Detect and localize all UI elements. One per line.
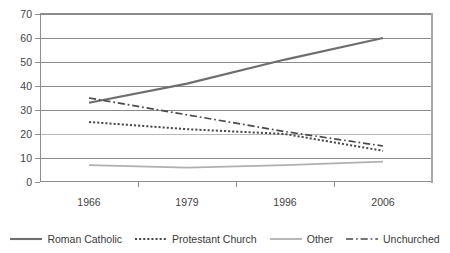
legend-entry-unchurched: Unchurched <box>346 233 440 245</box>
legend-label-unchurched: Unchurched <box>383 233 440 245</box>
legend: Roman Catholic Protestant Church Other U… <box>0 228 450 250</box>
legend-entry-other: Other <box>270 233 333 245</box>
line-chart: 70 60 50 40 30 20 10 0 1966 1979 1996 20… <box>0 0 450 253</box>
legend-label-other: Other <box>307 233 333 245</box>
series-line-other <box>89 162 383 168</box>
series-line-unchurched <box>89 98 383 146</box>
legend-swatch-other <box>270 234 302 244</box>
series-layer <box>0 0 450 253</box>
legend-swatch-unchurched <box>346 234 378 244</box>
legend-entry-roman-catholic: Roman Catholic <box>10 233 122 245</box>
series-line-protestant-church <box>89 122 383 151</box>
series-line-roman-catholic <box>89 38 383 103</box>
legend-label-roman-catholic: Roman Catholic <box>47 233 122 245</box>
legend-swatch-protestant-church <box>135 234 167 244</box>
legend-label-protestant-church: Protestant Church <box>172 233 257 245</box>
legend-entry-protestant-church: Protestant Church <box>135 233 257 245</box>
legend-swatch-roman-catholic <box>10 234 42 244</box>
